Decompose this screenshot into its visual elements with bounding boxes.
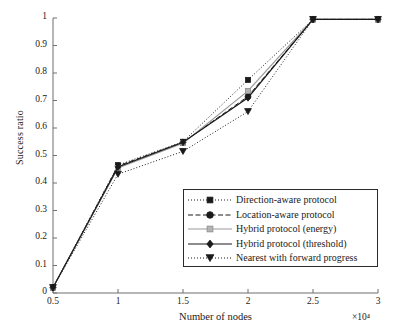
legend-label: Direction-aware protocol <box>236 193 337 207</box>
x-axis-multiplier: ×10⁴ <box>352 312 370 322</box>
y-tick-label: 0.5 <box>0 149 47 159</box>
chart-canvas <box>0 0 398 336</box>
x-tick-label: 2 <box>234 296 262 306</box>
x-axis-title: Number of nodes <box>53 311 378 322</box>
x-tick-label: 3 <box>364 296 392 306</box>
legend-item-3: Hybrid protocol (threshold) <box>184 237 377 252</box>
x-tick-label: 1.5 <box>169 296 197 306</box>
y-tick-label: 0 <box>0 286 47 296</box>
legend-key-square-icon <box>184 193 236 207</box>
legend-key-diamond-icon <box>184 237 236 251</box>
legend-item-1: Location-aware protocol <box>184 208 377 223</box>
legend-key-circle-icon <box>184 208 236 222</box>
figure: Success ratio Number of nodes ×10⁴ 00.10… <box>0 0 398 336</box>
y-tick-label: 0.6 <box>0 121 47 131</box>
legend-key-triangle-down-icon <box>184 251 236 265</box>
y-tick-label: 0.9 <box>0 39 47 49</box>
legend-label: Hybrid protocol (energy) <box>236 222 336 236</box>
legend-key-square-light-icon <box>184 222 236 236</box>
y-tick-label: 0.1 <box>0 259 47 269</box>
y-tick-label: 0.4 <box>0 176 47 186</box>
legend-label: Nearest with forward progress <box>236 251 357 265</box>
legend-item-2: Hybrid protocol (energy) <box>184 222 377 237</box>
y-tick-label: 1 <box>0 11 47 21</box>
legend-item-4: Nearest with forward progress <box>184 251 377 266</box>
x-tick-label: 0.5 <box>39 296 67 306</box>
y-tick-label: 0.7 <box>0 94 47 104</box>
legend: Direction-aware protocolLocation-aware p… <box>183 189 378 267</box>
legend-label: Location-aware protocol <box>236 208 335 222</box>
x-tick-label: 2.5 <box>299 296 327 306</box>
y-tick-label: 0.3 <box>0 204 47 214</box>
y-tick-label: 0.2 <box>0 231 47 241</box>
legend-item-0: Direction-aware protocol <box>184 193 377 208</box>
x-tick-label: 1 <box>104 296 132 306</box>
legend-label: Hybrid protocol (threshold) <box>236 237 347 251</box>
y-tick-label: 0.8 <box>0 66 47 76</box>
y-axis-title: Success ratio <box>14 93 25 183</box>
